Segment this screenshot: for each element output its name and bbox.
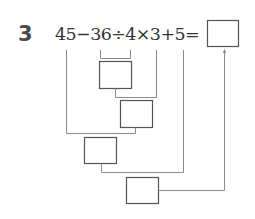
calculation-flow-diagram [0,0,255,219]
answer-box[interactable] [208,21,239,47]
bracket-36-div-4 [101,50,131,59]
step-box-1[interactable] [100,62,132,89]
step-box-4[interactable] [127,178,159,204]
arrow-up-icon [223,49,226,54]
step-box-2[interactable] [121,101,153,128]
step-box-3[interactable] [85,138,117,164]
connector-box4-answer [159,52,225,191]
